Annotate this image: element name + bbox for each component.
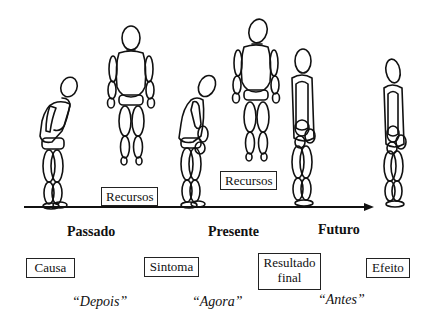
stage-box-cause: Causa	[26, 258, 75, 278]
figure-bent-hand-on-face	[32, 76, 84, 210]
quote-after: “Depois”	[72, 294, 127, 310]
label-present: Presente	[208, 224, 259, 240]
stage-box-symptom: Sintoma	[144, 257, 199, 277]
quote-before: “Antes”	[318, 292, 365, 308]
figure-floating-upright	[105, 25, 161, 165]
figure-floating-upright	[230, 18, 286, 163]
label-past: Passado	[67, 224, 115, 240]
figure-bent-slouched	[173, 74, 219, 210]
figure-standing-hands-behind	[288, 48, 324, 208]
quote-now: “Agora”	[192, 294, 243, 310]
figure-standing-hands-behind	[380, 58, 412, 208]
label-future: Futuro	[318, 222, 360, 238]
stage-box-final-result: Resultado final	[258, 253, 321, 290]
stage-box-effect: Efeito	[366, 258, 410, 278]
resources-box-past: Recursos	[101, 187, 158, 206]
resources-box-present: Recursos	[220, 171, 277, 190]
